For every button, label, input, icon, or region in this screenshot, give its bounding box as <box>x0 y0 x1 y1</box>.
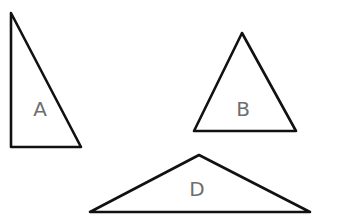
triangle-a: A <box>11 13 81 147</box>
triangle-a-label: A <box>33 97 47 121</box>
triangle-d: D <box>90 155 310 212</box>
triangle-diagram: A B D <box>0 0 348 217</box>
triangle-b-label: B <box>236 97 250 121</box>
diagram-svg: A B D <box>0 0 348 217</box>
triangle-b: B <box>194 33 296 131</box>
triangle-a-outline <box>11 13 81 147</box>
triangle-d-label: D <box>189 177 204 201</box>
